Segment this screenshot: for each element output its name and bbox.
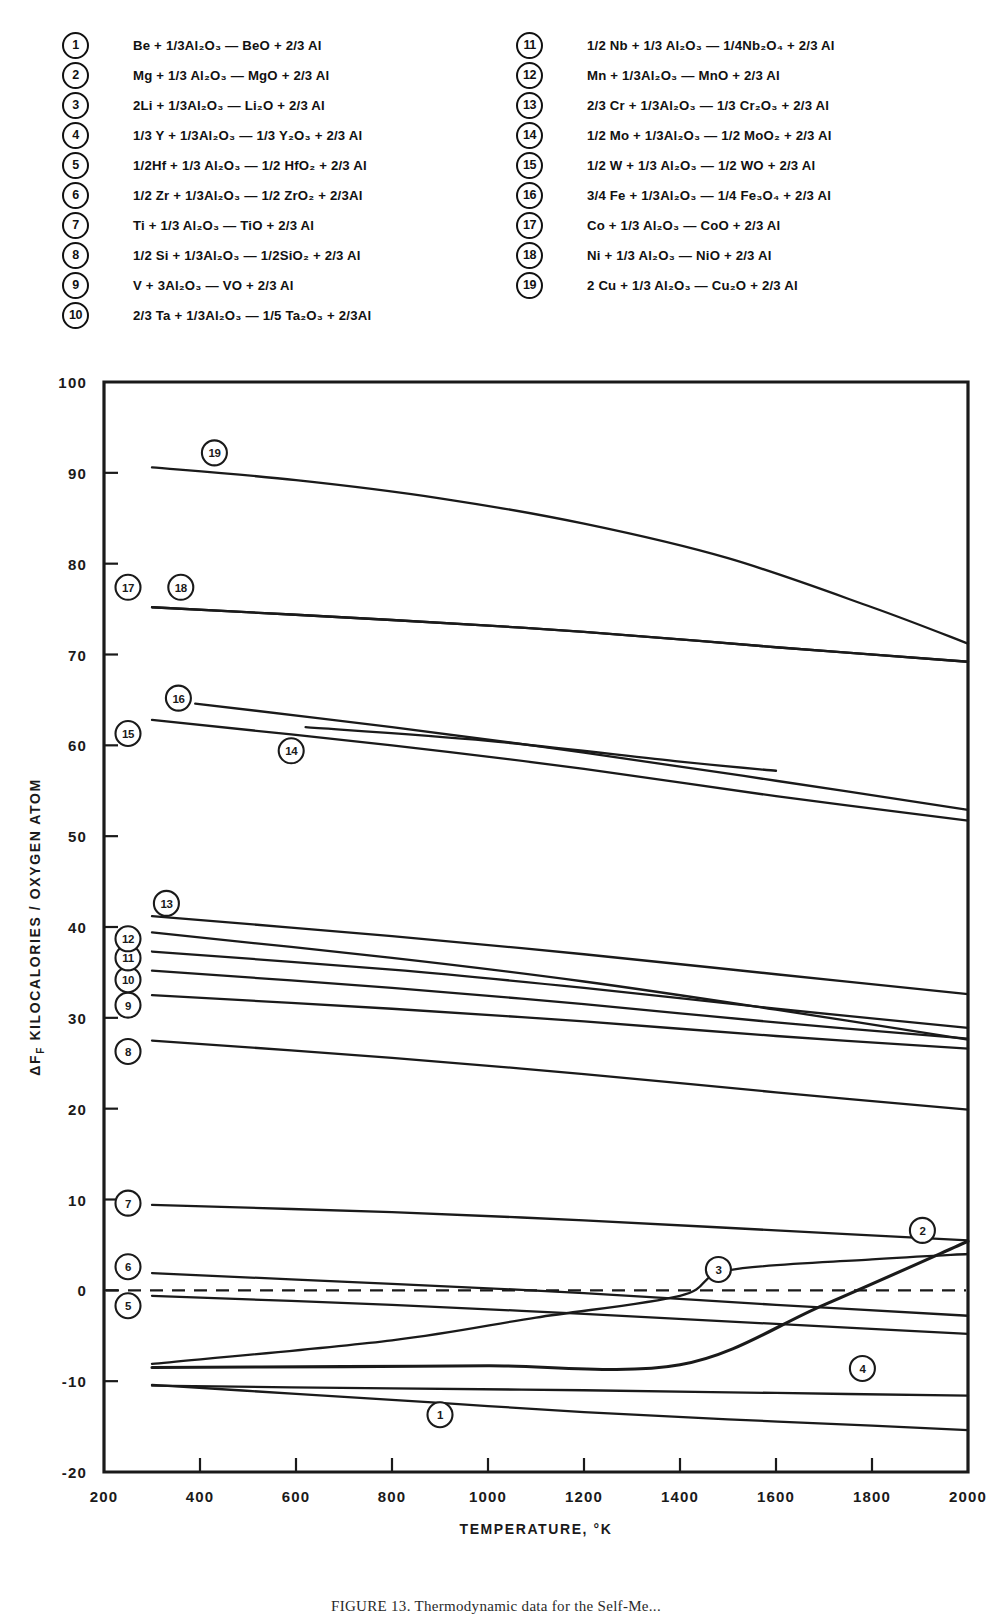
curve-label-12: 12 <box>116 926 141 951</box>
legend-equation-19: 2 Cu + 1/3 Al₂O₃ — Cu₂O + 2/3 Al <box>587 278 798 293</box>
legend-item-16: 163/4 Fe + 1/3Al₂O₃ — 1/4 Fe₃O₄ + 2/3 Al <box>516 180 835 210</box>
legend-marker-7: 7 <box>62 212 89 239</box>
curve-19 <box>152 467 968 643</box>
marker-text-5: 5 <box>125 1300 132 1312</box>
curve-label-1: 1 <box>428 1402 453 1427</box>
y-tick-label: 10 <box>68 1192 87 1209</box>
x-tick-label: 1600 <box>757 1488 795 1505</box>
y-tick-label: 100 <box>58 374 87 391</box>
marker-text-16: 16 <box>172 693 184 705</box>
y-tick-label: 80 <box>68 556 87 573</box>
marker-text-15: 15 <box>122 728 135 740</box>
legend-marker-17: 17 <box>516 212 543 239</box>
legend-marker-11: 11 <box>516 32 543 59</box>
marker-text-1: 1 <box>437 1409 444 1421</box>
plot-area: -20-100102030405060708090100200400600800… <box>0 352 992 1618</box>
y-axis-title-sub: F <box>35 1046 46 1054</box>
legend-equation-1: Be + 1/3Al₂O₃ — BeO + 2/3 Al <box>133 38 322 53</box>
legend-equation-2: Mg + 1/3 Al₂O₃ — MgO + 2/3 Al <box>133 68 329 83</box>
marker-text-18: 18 <box>175 582 188 594</box>
legend-equation-7: Ti + 1/3 Al₂O₃ — TiO + 2/3 Al <box>133 218 314 233</box>
legend-equation-10: 2/3 Ta + 1/3Al₂O₃ — 1/5 Ta₂O₃ + 2/3Al <box>133 308 371 323</box>
curve-label-3: 3 <box>706 1257 731 1282</box>
x-tick-label: 800 <box>378 1488 407 1505</box>
legend-item-13: 132/3 Cr + 1/3Al₂O₃ — 1/3 Cr₂O₃ + 2/3 Al <box>516 90 835 120</box>
marker-text-8: 8 <box>125 1046 132 1058</box>
legend-equation-4: 1/3 Y + 1/3Al₂O₃ — 1/3 Y₂O₃ + 2/3 Al <box>133 128 362 143</box>
curve-label-9: 9 <box>116 993 141 1018</box>
legend-equation-18: Ni + 1/3 Al₂O₃ — NiO + 2/3 Al <box>587 248 772 263</box>
legend-equation-9: V + 3Al₂O₃ — VO + 2/3 Al <box>133 278 294 293</box>
x-tick-label: 1000 <box>469 1488 507 1505</box>
legend-equation-16: 3/4 Fe + 1/3Al₂O₃ — 1/4 Fe₃O₄ + 2/3 Al <box>587 188 831 203</box>
curve-label-8: 8 <box>116 1039 141 1064</box>
curve-4 <box>152 1386 968 1396</box>
marker-text-6: 6 <box>125 1261 131 1273</box>
y-tick-label: 20 <box>68 1101 87 1118</box>
legend-item-14: 141/2 Mo + 1/3Al₂O₃ — 1/2 MoO₂ + 2/3 Al <box>516 120 835 150</box>
legend-column-left: 1Be + 1/3Al₂O₃ — BeO + 2/3 Al2Mg + 1/3 A… <box>62 30 371 330</box>
y-tick-label: 30 <box>68 1010 87 1027</box>
legend-marker-13: 13 <box>516 92 543 119</box>
x-tick-label: 200 <box>90 1488 119 1505</box>
legend-marker-2: 2 <box>62 62 89 89</box>
marker-text-4: 4 <box>859 1363 866 1375</box>
legend-equation-13: 2/3 Cr + 1/3Al₂O₃ — 1/3 Cr₂O₃ + 2/3 Al <box>587 98 829 113</box>
legend-item-11: 111/2 Nb + 1/3 Al₂O₃ — 1/4Nb₂O₄ + 2/3 Al <box>516 30 835 60</box>
legend-item-8: 81/2 Si + 1/3Al₂O₃ — 1/2SiO₂ + 2/3 Al <box>62 240 371 270</box>
curve-label-13: 13 <box>154 891 179 916</box>
legend-item-10: 102/3 Ta + 1/3Al₂O₃ — 1/5 Ta₂O₃ + 2/3Al <box>62 300 371 330</box>
marker-text-10: 10 <box>122 974 134 986</box>
legend-equation-17: Co + 1/3 Al₂O₃ — CoO + 2/3 Al <box>587 218 780 233</box>
y-axis-title: ΔFF KILOCALORIES / OXYGEN ATOM <box>27 778 46 1075</box>
legend-item-7: 7Ti + 1/3 Al₂O₃ — TiO + 2/3 Al <box>62 210 371 240</box>
curve-label-2: 2 <box>910 1218 935 1243</box>
marker-text-2: 2 <box>919 1225 925 1237</box>
curve-label-18: 18 <box>168 575 193 600</box>
x-tick-label: 1800 <box>853 1488 891 1505</box>
legend-item-12: 12Mn + 1/3Al₂O₃ — MnO + 2/3 Al <box>516 60 835 90</box>
legend-equation-14: 1/2 Mo + 1/3Al₂O₃ — 1/2 MoO₂ + 2/3 Al <box>587 128 832 143</box>
curve-7 <box>152 1205 968 1240</box>
y-tick-label: 60 <box>68 737 87 754</box>
x-tick-label: 400 <box>186 1488 215 1505</box>
marker-text-13: 13 <box>160 898 172 910</box>
curve-label-4: 4 <box>850 1356 875 1381</box>
legend-item-9: 9V + 3Al₂O₃ — VO + 2/3 Al <box>62 270 371 300</box>
y-axis-title-text: ΔFF KILOCALORIES / OXYGEN ATOM <box>27 778 46 1075</box>
x-tick-label: 2000 <box>949 1488 987 1505</box>
legend-marker-9: 9 <box>62 272 89 299</box>
marker-text-7: 7 <box>125 1198 131 1210</box>
curve-16 <box>195 704 968 810</box>
legend-item-15: 151/2 W + 1/3 Al₂O₃ — 1/2 WO + 2/3 Al <box>516 150 835 180</box>
marker-text-19: 19 <box>208 447 220 459</box>
x-tick-label: 1200 <box>565 1488 603 1505</box>
legend-item-1: 1Be + 1/3Al₂O₃ — BeO + 2/3 Al <box>62 30 371 60</box>
curve-13 <box>152 916 968 994</box>
curve-label-17: 17 <box>116 575 141 600</box>
curve-label-15: 15 <box>116 721 141 746</box>
legend-marker-8: 8 <box>62 242 89 269</box>
figure-root: 1Be + 1/3Al₂O₃ — BeO + 2/3 Al2Mg + 1/3 A… <box>0 0 992 1618</box>
curve-8 <box>152 1041 968 1110</box>
legend-equation-5: 1/2Hf + 1/3 Al₂O₃ — 1/2 HfO₂ + 2/3 Al <box>133 158 367 173</box>
reaction-legend: 1Be + 1/3Al₂O₃ — BeO + 2/3 Al2Mg + 1/3 A… <box>0 0 992 352</box>
legend-equation-6: 1/2 Zr + 1/3Al₂O₃ — 1/2 ZrO₂ + 2/3Al <box>133 188 363 203</box>
curve-label-6: 6 <box>116 1254 141 1279</box>
legend-equation-12: Mn + 1/3Al₂O₃ — MnO + 2/3 Al <box>587 68 780 83</box>
legend-marker-4: 4 <box>62 122 89 149</box>
y-tick-label: -10 <box>62 1373 87 1390</box>
marker-text-3: 3 <box>715 1264 721 1276</box>
legend-marker-1: 1 <box>62 32 89 59</box>
curve-label-7: 7 <box>116 1191 141 1216</box>
legend-item-3: 32Li + 1/3Al₂O₃ — Li₂O + 2/3 Al <box>62 90 371 120</box>
y-tick-label: -20 <box>62 1464 87 1481</box>
curve-18 <box>152 607 968 662</box>
curve-label-14: 14 <box>279 738 304 763</box>
legend-equation-11: 1/2 Nb + 1/3 Al₂O₃ — 1/4Nb₂O₄ + 2/3 Al <box>587 38 835 53</box>
y-axis-title-rest: KILOCALORIES / OXYGEN ATOM <box>27 778 43 1046</box>
x-tick-label: 600 <box>282 1488 311 1505</box>
curve-label-5: 5 <box>116 1293 141 1318</box>
legend-column-right: 111/2 Nb + 1/3 Al₂O₃ — 1/4Nb₂O₄ + 2/3 Al… <box>516 30 835 300</box>
y-tick-label: 90 <box>68 465 87 482</box>
